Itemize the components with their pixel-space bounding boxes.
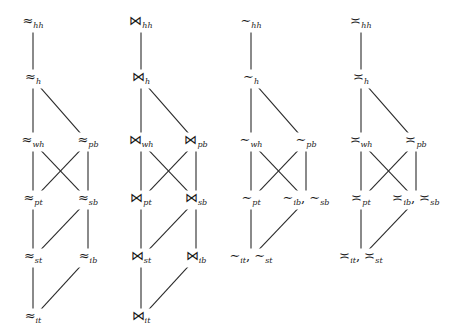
relation-subscript: it: [145, 316, 151, 325]
node-approx-pt: ≈pt: [22, 191, 43, 210]
relation-subscript: wh: [361, 140, 373, 149]
node-asymp-pt: ≍pt: [350, 191, 371, 210]
edge-asymp-h-pb: [367, 86, 410, 135]
relation-subscript: wh: [142, 140, 154, 149]
edge-bowtie-sb-st: [147, 207, 190, 252]
relation-symbol: ⋈: [186, 248, 199, 263]
node-bowtie-pt: ⋈pt: [129, 191, 152, 210]
relation-symbol: ≈: [25, 308, 36, 323]
relation-subscript: pt: [143, 198, 151, 207]
relation-subscript: pb: [416, 140, 426, 149]
relation-subscript: hh: [251, 21, 261, 30]
node-asymp-ibsb: ≍ib, ≍sb: [391, 191, 440, 210]
relation-symbol: ⋈: [129, 13, 142, 28]
node-approx-ib: ≈ib: [78, 249, 99, 268]
node-asymp-itst: ≍it, ≍st: [338, 249, 383, 268]
relation-symbol: ∼: [295, 132, 306, 147]
relation-subscript: h: [364, 77, 369, 86]
relation-symbol: ∼: [240, 132, 251, 147]
edge-approx-sb-st: [39, 207, 82, 252]
node-approx-it: ≈it: [24, 309, 43, 328]
relation-symbol: ⋈: [131, 248, 144, 263]
relation-subscript: wh: [250, 140, 262, 149]
node-sim-pb: ∼pb: [294, 133, 317, 152]
relation-subscript: st: [265, 256, 272, 265]
relation-subscript: pb: [306, 140, 316, 149]
relation-subscript: ib: [90, 256, 98, 265]
relation-symbol: ≈: [77, 132, 88, 147]
relation-subscript: ib: [403, 198, 411, 207]
edge-asymp-ibsb-itst: [367, 207, 410, 252]
node-bowtie-h: ⋈h: [131, 70, 151, 89]
relation-symbol: ≈: [25, 69, 36, 84]
edge-approx-h-pb: [39, 86, 82, 135]
relation-subscript: sb: [320, 198, 329, 207]
relation-symbol: ⋈: [184, 132, 197, 147]
relation-symbol: ≈: [24, 248, 35, 263]
relation-symbol: ⋈: [130, 190, 143, 205]
relation-subscript: it: [36, 316, 42, 325]
relation-symbol: ≍: [339, 248, 350, 263]
node-approx-st: ≈st: [23, 249, 43, 268]
node-bowtie-pb: ⋈pb: [183, 133, 208, 152]
relation-subscript: wh: [32, 140, 44, 149]
relation-symbol: ⋈: [129, 132, 142, 147]
relation-subscript: st: [144, 256, 151, 265]
relation-subscript: pb: [197, 140, 207, 149]
edge-sim-h-pb: [257, 86, 300, 135]
edge-sim-ibsb-itst: [257, 207, 300, 252]
relation-symbol: ≍: [392, 190, 403, 205]
node-asymp-hh: ≍hh: [349, 14, 372, 33]
relation-symbol: ≍: [351, 190, 362, 205]
relation-subscript: sb: [430, 198, 439, 207]
node-sim-ibsb: ∼ib, ∼sb: [282, 191, 331, 210]
relation-symbol: ≍: [350, 13, 361, 28]
node-approx-sb: ≈sb: [77, 191, 99, 210]
node-approx-hh: ≈hh: [21, 14, 44, 33]
relation-symbol: ≍: [350, 132, 361, 147]
relation-symbol: ∼: [243, 69, 254, 84]
node-asymp-wh: ≍wh: [349, 133, 374, 152]
edge-approx-ib-it: [39, 265, 82, 312]
relation-subscript: h: [254, 77, 259, 86]
edge-bowtie-h-pb: [147, 86, 190, 135]
node-sim-itst: ∼it, ∼st: [228, 249, 273, 268]
node-approx-h: ≈h: [24, 70, 42, 89]
relation-symbol: ≈: [22, 13, 33, 28]
node-bowtie-wh: ⋈wh: [128, 133, 155, 152]
relation-symbol: ≈: [79, 248, 90, 263]
relation-subscript: pt: [252, 198, 260, 207]
node-approx-wh: ≈wh: [21, 133, 46, 152]
relation-symbol: ∼: [283, 190, 294, 205]
relation-subscript: h: [145, 77, 150, 86]
relation-symbol: ⋈: [185, 190, 198, 205]
node-sim-h: ∼h: [242, 70, 260, 89]
relation-subscript: h: [36, 77, 41, 86]
node-asymp-pb: ≍pb: [404, 133, 427, 152]
node-bowtie-sb: ⋈sb: [184, 191, 208, 210]
relation-subscript: pb: [88, 140, 98, 149]
relation-symbol: ≍: [353, 69, 364, 84]
relation-subscript: st: [375, 256, 382, 265]
relation-subscript: ib: [199, 256, 207, 265]
relation-symbol: ⋈: [132, 308, 145, 323]
relation-subscript: hh: [142, 21, 152, 30]
node-sim-wh: ∼wh: [239, 133, 264, 152]
relation-symbol: ∼: [240, 13, 251, 28]
node-bowtie-hh: ⋈hh: [128, 14, 153, 33]
node-sim-pt: ∼pt: [240, 191, 261, 210]
relation-symbol: ≍: [405, 132, 416, 147]
relation-subscript: ib: [293, 198, 301, 207]
relation-subscript: sb: [89, 198, 98, 207]
node-bowtie-ib: ⋈ib: [185, 249, 208, 268]
relation-symbol: , ∼: [246, 248, 265, 263]
node-asymp-h: ≍h: [352, 70, 370, 89]
relation-subscript: pt: [34, 198, 42, 207]
relation-subscript: sb: [198, 198, 207, 207]
relation-symbol: ≈: [78, 190, 89, 205]
node-sim-hh: ∼hh: [239, 14, 262, 33]
relation-subscript: pt: [362, 198, 370, 207]
relation-symbol: , ≍: [356, 248, 375, 263]
relation-symbol: ∼: [241, 190, 252, 205]
relation-symbol: ≈: [23, 190, 34, 205]
